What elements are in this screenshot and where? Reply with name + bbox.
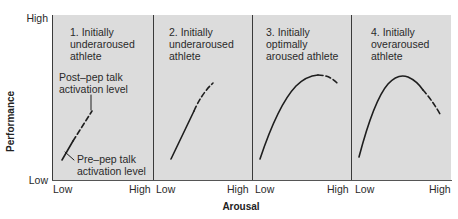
panel-3-dashed-curve [318, 75, 338, 84]
arousal-performance-figure: High Low Performance Low High Low High L… [0, 0, 458, 219]
panel-2-solid-curve [171, 111, 194, 159]
panel-1-dashed-curve [73, 111, 92, 141]
panel-3-solid-curve [260, 75, 318, 159]
pre-pep-leader-line [65, 152, 74, 160]
panel-2-dashed-curve [194, 83, 213, 111]
panel-4-dashed-curve [423, 90, 440, 114]
panel-4-solid-curve [359, 76, 423, 157]
performance-curves [0, 0, 458, 219]
